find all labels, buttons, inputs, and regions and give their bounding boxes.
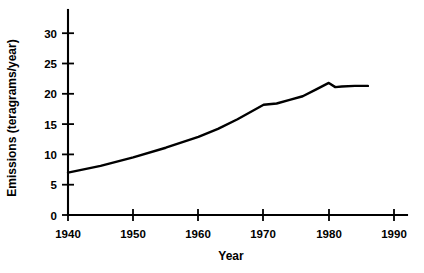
x-tick-label-1980: 1980 bbox=[316, 228, 342, 240]
x-tick-label-1960: 1960 bbox=[185, 228, 211, 240]
chart-plot-area: Emissions (teragrams/year) 0 5 10 15 20 … bbox=[0, 0, 424, 273]
emissions-line-chart: Emissions (teragrams/year) 0 5 10 15 20 … bbox=[0, 0, 424, 273]
x-tick-label-1990: 1990 bbox=[381, 228, 407, 240]
x-tick-label-1950: 1950 bbox=[120, 228, 146, 240]
y-tick-label-20: 20 bbox=[44, 88, 57, 100]
y-axis-title: Emissions (teragrams/year) bbox=[5, 39, 19, 196]
y-tick-label-10: 10 bbox=[44, 149, 57, 161]
x-axis-title: Year bbox=[218, 249, 244, 263]
y-tick-label-5: 5 bbox=[51, 179, 58, 191]
emissions-series-line bbox=[68, 83, 368, 173]
x-axis-tick-labels: 1940 1950 1960 1970 1980 1990 bbox=[55, 228, 407, 240]
y-tick-label-30: 30 bbox=[44, 28, 57, 40]
y-axis-tick-labels: 0 5 10 15 20 25 30 bbox=[44, 28, 57, 222]
y-tick-label-15: 15 bbox=[44, 119, 57, 131]
y-tick-label-25: 25 bbox=[44, 58, 57, 70]
y-tick-label-0: 0 bbox=[51, 210, 57, 222]
x-tick-label-1970: 1970 bbox=[250, 228, 276, 240]
x-tick-label-1940: 1940 bbox=[55, 228, 81, 240]
